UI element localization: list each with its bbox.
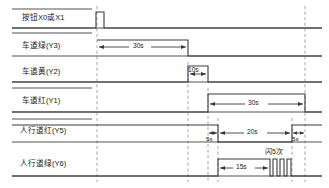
signal-label-y1: 车道红(Y1) bbox=[22, 95, 61, 105]
dimension-text-y6-15s: 15s bbox=[236, 163, 247, 170]
dimension-text-y5-5s-first: 5s bbox=[206, 135, 213, 142]
dimension-text-y5-5s-second: 5s bbox=[292, 135, 299, 142]
signal-label-y3: 车道绿(Y3) bbox=[22, 40, 61, 50]
dimension-text-y5-20s: 20s bbox=[247, 128, 258, 135]
signal-label-x0x1: 按钮X0或X1 bbox=[22, 12, 65, 22]
timing-diagram-canvas: 按钮X0或X1 车道绿(Y3) 30s 车道黄(Y2) 10s 车道红(Y1) … bbox=[0, 0, 329, 188]
dimension-text-y3-30s: 30s bbox=[133, 42, 144, 49]
dimension-text-y1-30s: 30s bbox=[248, 99, 259, 106]
annotation-flash-5-times: 闪5次 bbox=[265, 147, 283, 156]
timing-diagram: 按钮X0或X1 车道绿(Y3) 30s 车道黄(Y2) 10s 车道红(Y1) … bbox=[0, 0, 329, 188]
signal-label-y2: 车道黄(Y2) bbox=[22, 66, 61, 76]
signal-label-y6: 人行道绿(Y6) bbox=[20, 158, 67, 168]
dimension-text-y2-10s: 10s bbox=[188, 66, 199, 73]
signal-label-y5: 人行道红(Y5) bbox=[20, 125, 67, 135]
